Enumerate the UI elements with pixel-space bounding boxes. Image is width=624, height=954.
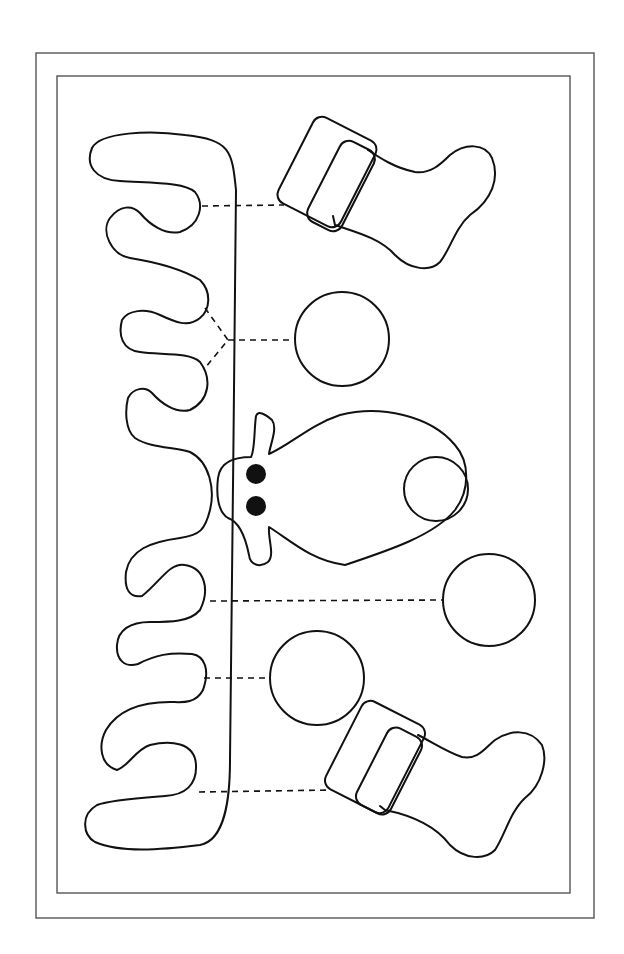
garland-strip — [85, 133, 236, 850]
moose-head — [217, 411, 468, 565]
outer-border — [36, 53, 594, 918]
connector-stocking-bottom — [199, 790, 332, 792]
stocking-bottom — [322, 697, 545, 857]
template-canvas — [0, 0, 624, 954]
stocking-bottom-cuff-inner — [353, 724, 426, 818]
stocking-top — [274, 113, 495, 268]
ornament-1 — [295, 292, 389, 386]
moose-nose — [404, 457, 468, 521]
connector-stocking-top — [202, 205, 284, 206]
stocking-bottom-body — [380, 732, 544, 857]
connector-ornament-1-fork — [205, 308, 228, 368]
ornament-2 — [443, 554, 535, 646]
stocking-top-body — [333, 146, 495, 268]
ornament-3 — [270, 631, 364, 725]
moose-eye-right — [246, 496, 266, 516]
moose-eye-left — [246, 464, 266, 484]
moose-head-outline — [217, 411, 466, 565]
connector-ornament-2 — [210, 600, 443, 601]
